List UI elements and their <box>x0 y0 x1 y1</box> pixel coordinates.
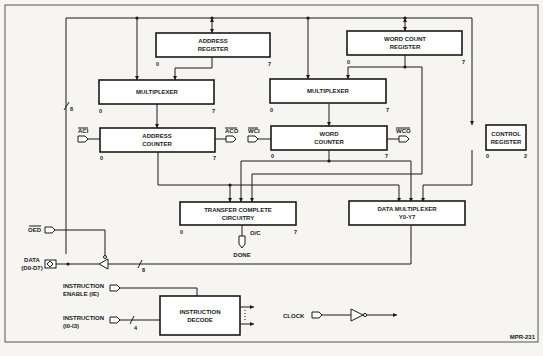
instruction-pin: INSTRUCTION (I0-I3) 4 <box>63 315 160 331</box>
svg-text:7: 7 <box>385 153 388 159</box>
data-multiplexer-block: DATA MULTIPLEXER Y0-Y7 <box>349 201 465 225</box>
oc-label: O/C <box>250 230 261 236</box>
wco-pin-icon <box>399 136 409 142</box>
svg-text:7: 7 <box>212 108 215 114</box>
wci-pin-icon <box>248 136 258 142</box>
svg-text:INSTRUCTION: INSTRUCTION <box>63 315 104 321</box>
svg-text:REGISTER: REGISTER <box>198 46 229 52</box>
svg-text:ENABLE (IE): ENABLE (IE) <box>63 291 99 297</box>
done-label: DONE <box>233 252 250 258</box>
wci-label: WCI <box>248 128 260 134</box>
transfer-complete-block: TRANSFER COMPLETE CIRCUITRY 0 7 O/C DONE <box>180 202 297 258</box>
oed-label: OED <box>28 227 42 233</box>
svg-text:INSTRUCTION: INSTRUCTION <box>63 283 104 289</box>
svg-text:0: 0 <box>271 153 274 159</box>
svg-text:7: 7 <box>386 107 389 113</box>
clock-pin-icon <box>312 312 322 318</box>
svg-text:MULTIPLEXER: MULTIPLEXER <box>307 88 350 94</box>
clock-label: CLOCK <box>283 313 305 319</box>
svg-text:0: 0 <box>347 59 350 65</box>
aco-pin-icon <box>226 136 236 142</box>
done-pin-icon <box>239 236 245 248</box>
svg-text:7: 7 <box>268 61 271 67</box>
svg-text:7: 7 <box>294 229 297 235</box>
aci-label: ACI <box>78 128 89 134</box>
svg-text:Y0-Y7: Y0-Y7 <box>399 214 416 220</box>
svg-text:7: 7 <box>462 59 465 65</box>
svg-text:ADDRESS: ADDRESS <box>198 38 227 44</box>
data-range-label: (D0-D7) <box>21 265 42 271</box>
instr-pin-icon <box>110 317 120 323</box>
instruction-bus-width: 4 <box>134 325 138 331</box>
svg-text:TRANSFER COMPLETE: TRANSFER COMPLETE <box>204 207 272 213</box>
svg-text:CONTROL: CONTROL <box>491 131 521 137</box>
multiplexer-right-block: MULTIPLEXER 0 7 <box>270 79 389 113</box>
svg-text:REGISTER: REGISTER <box>491 139 522 145</box>
svg-text:0: 0 <box>99 108 102 114</box>
address-register-block: ADDRESS REGISTER 0 7 <box>156 33 271 67</box>
svg-text:(I0-I3): (I0-I3) <box>63 323 79 329</box>
data-pin: DATA (D0-D7) <box>21 257 66 271</box>
data-label: DATA <box>24 257 40 263</box>
svg-text:2: 2 <box>524 153 527 159</box>
svg-text:ADDRESS: ADDRESS <box>142 133 171 139</box>
wco-label: WCO <box>396 128 411 134</box>
svg-text:MULTIPLEXER: MULTIPLEXER <box>136 89 179 95</box>
svg-text:DECODE: DECODE <box>187 317 213 323</box>
svg-text:CIRCUITRY: CIRCUITRY <box>222 215 254 221</box>
internal-bus-width: 8 <box>70 106 73 112</box>
svg-text:REGISTER: REGISTER <box>390 44 421 50</box>
svg-text:COUNTER: COUNTER <box>142 141 172 147</box>
data-buffer-icon <box>99 259 108 269</box>
block-diagram: 8 <box>0 0 543 356</box>
control-register-block: CONTROL REGISTER 0 2 <box>486 125 527 159</box>
clock-pin: CLOCK <box>283 309 397 321</box>
svg-text:0: 0 <box>270 107 273 113</box>
oed-pin: OED <box>28 226 55 233</box>
clock-buffer-icon <box>351 309 363 321</box>
oed-pin-icon <box>45 227 55 233</box>
aci-pin-icon <box>78 136 88 142</box>
svg-text:DATA MULTIPLEXER: DATA MULTIPLEXER <box>377 206 437 212</box>
figure-id: MPR-231 <box>510 334 536 340</box>
svg-text:COUNTER: COUNTER <box>314 139 344 145</box>
svg-text:INSTRUCTION: INSTRUCTION <box>180 309 221 315</box>
svg-text:0: 0 <box>100 155 103 161</box>
instruction-enable-pin: INSTRUCTION ENABLE (IE) <box>63 283 197 297</box>
svg-text:WORD COUNT: WORD COUNT <box>384 36 426 42</box>
word-count-register-block: WORD COUNT REGISTER 0 7 <box>347 31 465 65</box>
svg-text:0: 0 <box>156 61 159 67</box>
ie-pin-icon <box>110 285 120 291</box>
aco-label: ACO <box>225 128 239 134</box>
svg-text:WORD: WORD <box>320 131 340 137</box>
svg-text:7: 7 <box>213 155 216 161</box>
svg-text:0: 0 <box>180 229 183 235</box>
instruction-decode-block: INSTRUCTION DECODE <box>160 296 254 335</box>
data-bus-width: 8 <box>142 267 145 273</box>
svg-text:0: 0 <box>486 153 489 159</box>
